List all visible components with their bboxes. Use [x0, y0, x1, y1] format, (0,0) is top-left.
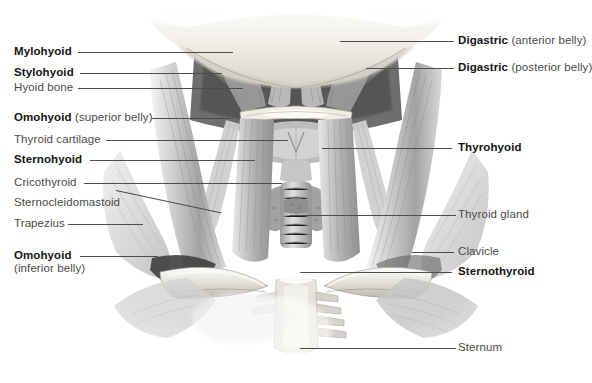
leader-line-sternothyroid [300, 272, 452, 273]
label-stylohyoid-term: Stylohyoid [14, 66, 74, 78]
leader-line-clavicle [412, 252, 454, 253]
label-omohyoid-inferior: Omohyoid (inferior belly) [14, 249, 85, 275]
label-mylohyoid-term: Mylohyoid [14, 45, 72, 57]
label-sternocleidomastoid: Sternocleidomastoid [14, 196, 120, 209]
label-cricothyroid: Cricothyroid [14, 176, 77, 189]
label-sternothyroid-term: Sternothyroid [458, 265, 535, 277]
label-sternothyroid: Sternothyroid [458, 265, 535, 278]
neck-anatomy-illustration [0, 0, 592, 383]
label-thyrohyoid-term: Thyrohyoid [458, 141, 522, 153]
label-stylohyoid: Stylohyoid [14, 66, 74, 79]
leader-line-thyroid-cartilage [106, 140, 288, 141]
leader-line-trapezius [68, 224, 143, 225]
label-digastric-posterior: Digastric (posterior belly) [458, 61, 592, 74]
label-trapezius: Trapezius [14, 217, 65, 230]
illustration-body [0, 0, 592, 383]
label-sternohyoid: Sternohyoid [14, 153, 82, 166]
label-sternum-term: Sternum [458, 341, 502, 353]
label-omohyoid-inferior-qualifier: (inferior belly) [14, 262, 85, 275]
leader-line-thyrohyoid [322, 148, 452, 149]
label-omohyoid-superior-term: Omohyoid [14, 111, 72, 123]
label-hyoid-bone-term: Hyoid bone [14, 81, 73, 93]
label-omohyoid-superior: Omohyoid (superior belly) [14, 111, 153, 124]
leader-line-cricothyroid [84, 183, 282, 184]
label-digastric-anterior-qualifier: (anterior belly) [508, 34, 586, 46]
leader-line-sternohyoid [90, 160, 255, 161]
leader-line-omohyoid-superior [152, 118, 230, 119]
label-digastric-anterior: Digastric (anterior belly) [458, 34, 587, 47]
anatomy-figure: Mylohyoid Stylohyoid Hyoid bone Omohyoid… [0, 0, 592, 383]
label-thyroid-cartilage: Thyroid cartilage [14, 133, 101, 146]
label-mylohyoid: Mylohyoid [14, 45, 72, 58]
leader-line-hyoid-bone [78, 88, 243, 89]
label-thyroid-gland: Thyroid gland [458, 208, 529, 221]
leader-line-mylohyoid [78, 52, 233, 53]
label-omohyoid-superior-qualifier: (superior belly) [72, 111, 153, 123]
label-omohyoid-inferior-term: Omohyoid [14, 249, 72, 261]
label-sternohyoid-term: Sternohyoid [14, 153, 82, 165]
label-sternum: Sternum [458, 341, 502, 354]
label-digastric-anterior-term: Digastric [458, 34, 508, 46]
label-thyroid-gland-term: Thyroid gland [458, 208, 529, 220]
label-trapezius-term: Trapezius [14, 217, 65, 229]
label-digastric-posterior-term: Digastric [458, 61, 508, 73]
leader-line-stylohyoid [80, 73, 222, 74]
leader-line-thyroid-gland [290, 215, 456, 216]
leader-line-digastric-posterior [366, 68, 454, 69]
label-sternocleidomastoid-term: Sternocleidomastoid [14, 196, 120, 208]
label-cricothyroid-term: Cricothyroid [14, 176, 77, 188]
label-digastric-posterior-qualifier: (posterior belly) [508, 61, 592, 73]
label-hyoid-bone: Hyoid bone [14, 81, 73, 94]
label-clavicle: Clavicle [458, 245, 499, 258]
leader-line-sternum [300, 348, 456, 349]
leader-line-omohyoid-inferior [80, 256, 158, 257]
label-clavicle-term: Clavicle [458, 245, 499, 257]
label-thyrohyoid: Thyrohyoid [458, 141, 522, 154]
label-thyroid-cartilage-term: Thyroid cartilage [14, 133, 101, 145]
leader-line-digastric-anterior [340, 41, 454, 42]
